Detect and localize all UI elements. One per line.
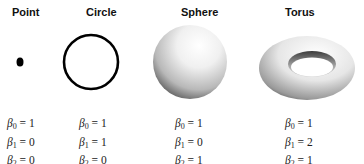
point-glyph — [17, 58, 24, 67]
sphere-glyph — [153, 25, 227, 99]
betti-row: β0 = 1 — [285, 116, 313, 135]
betti-row: β1 = 1 — [79, 135, 107, 154]
betti-row: β1 = 2 — [285, 135, 313, 154]
betti-row: β2 = 1 — [285, 153, 313, 164]
betti-row: β2 = 0 — [79, 153, 107, 164]
shapes-figure — [0, 0, 364, 112]
betti-row: β0 = 1 — [175, 116, 203, 135]
betti-row: β2 = 0 — [7, 153, 35, 164]
torus-glyph — [259, 36, 355, 100]
betti-row: β1 = 0 — [175, 135, 203, 154]
betti-row: β0 = 1 — [7, 116, 35, 135]
circle-glyph — [64, 35, 118, 89]
betti-list-circle: β0 = 1 β1 = 1 β2 = 0 — [79, 116, 107, 164]
betti-list-torus: β0 = 1 β1 = 2 β2 = 1 — [285, 116, 313, 164]
betti-list-sphere: β0 = 1 β1 = 0 β2 = 1 — [175, 116, 203, 164]
betti-list-point: β0 = 1 β1 = 0 β2 = 0 — [7, 116, 35, 164]
betti-row: β2 = 1 — [175, 153, 203, 164]
betti-row: β1 = 0 — [7, 135, 35, 154]
betti-row: β0 = 1 — [79, 116, 107, 135]
